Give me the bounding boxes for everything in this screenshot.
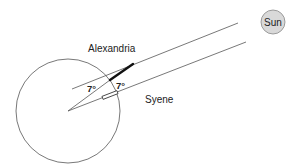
syene-well [102,91,118,100]
sun-label: Sun [264,17,282,28]
alexandria-label: Alexandria [88,43,136,54]
gnomon-stick [110,64,133,80]
syene-label: Syene [145,94,174,105]
eratosthenes-diagram: Sun Alexandria Syene 7° 7° [0,0,302,165]
sun-ray-alexandria [72,23,238,89]
angle-label-gnomon: 7° [116,80,125,91]
angle-label-center: 7° [87,83,96,94]
